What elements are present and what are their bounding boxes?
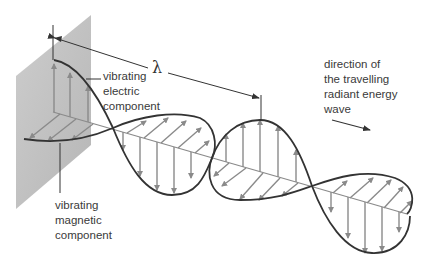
direction-label: direction of the travelling radiant ener… <box>324 57 398 117</box>
label-line: component <box>103 99 160 114</box>
label-line: vibrating <box>103 69 160 84</box>
direction-arrow <box>332 120 370 130</box>
label-line: radiant energy <box>324 87 398 102</box>
label-line: the travelling <box>324 72 398 87</box>
label-line: magnetic <box>55 213 112 228</box>
label-line: direction of <box>324 57 398 72</box>
label-line: electric <box>103 84 160 99</box>
label-line: component <box>55 228 112 243</box>
electric-component-label: vibrating electric component <box>103 69 160 114</box>
magnetic-component-label: vibrating magnetic component <box>55 198 112 243</box>
label-line: vibrating <box>55 198 112 213</box>
label-line: wave <box>324 102 398 117</box>
